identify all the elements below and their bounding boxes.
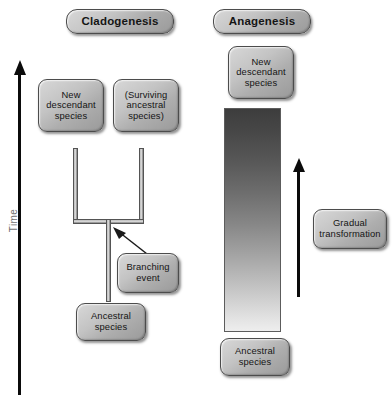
panel-title-cladogenesis-text: Cladogenesis [79, 15, 160, 28]
branching-event-box: Branching event [117, 253, 179, 293]
gradual-transformation-arrow-line [297, 171, 300, 297]
anagenesis-gradient-column [224, 108, 281, 332]
ana-new-descendant-species-text: New descendant species [234, 57, 287, 89]
tree-right-stem [139, 148, 144, 224]
clado-surviving-ancestral-species-box: (Surviving ancestral species) [113, 79, 179, 132]
clado-surviving-ancestral-species-text: (Surviving ancestral species) [123, 90, 170, 122]
clado-new-descendant-species-box: New descendant species [38, 79, 104, 132]
ana-new-descendant-species-box: New descendant species [228, 46, 294, 99]
gradual-transformation-text: Gradual transformation [317, 218, 382, 239]
time-axis-arrowhead [14, 60, 26, 75]
panel-title-anagenesis-text: Anagenesis [227, 15, 298, 28]
time-axis-label: Time [8, 201, 19, 241]
clado-ancestral-species-box: Ancestral species [76, 303, 146, 341]
gradual-transformation-arrowhead [293, 158, 305, 172]
clado-ancestral-species-text: Ancestral species [89, 311, 133, 332]
tree-left-stem [73, 148, 78, 224]
branching-event-text: Branching event [124, 262, 171, 283]
panel-title-cladogenesis: Cladogenesis [66, 9, 174, 34]
panel-title-anagenesis: Anagenesis [213, 9, 311, 34]
gradual-transformation-box: Gradual transformation [313, 209, 387, 249]
ana-ancestral-species-box: Ancestral species [220, 338, 290, 376]
ana-ancestral-species-text: Ancestral species [233, 346, 277, 367]
speciation-modes-diagram: Time Cladogenesis New descendant species… [0, 0, 392, 395]
clado-new-descendant-species-text: New descendant species [44, 90, 97, 122]
